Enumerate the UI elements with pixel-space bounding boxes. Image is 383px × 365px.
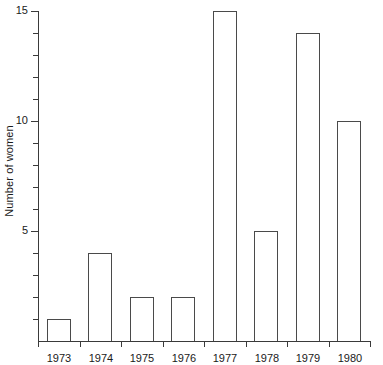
bar (213, 11, 237, 341)
y-axis-tick-label: 15 (16, 4, 28, 17)
x-axis-tick (246, 341, 247, 347)
y-axis-tick-minor (33, 319, 38, 320)
y-axis-tick-minor (33, 165, 38, 166)
x-axis-tick-label: 1975 (121, 351, 163, 365)
x-axis-tick (163, 341, 164, 347)
plot-area: 51015 19731974197519761977197819791980 (38, 11, 370, 341)
x-axis-tick (329, 341, 330, 347)
bar (171, 297, 195, 341)
bar (130, 297, 154, 341)
x-axis-tick-label: 1977 (204, 351, 246, 365)
y-axis-tick-label: 10 (16, 114, 28, 127)
x-axis-tick-label: 1979 (287, 351, 329, 365)
bar (47, 319, 71, 341)
y-axis-tick-major: 10 (31, 121, 38, 122)
x-axis-tick-label: 1978 (246, 351, 288, 365)
y-axis-tick-minor (33, 253, 38, 254)
x-axis-tick-label: 1973 (38, 351, 80, 365)
x-axis-tick (121, 341, 122, 347)
x-axis-tick-label: 1976 (163, 351, 205, 365)
x-axis-tick (80, 341, 81, 347)
y-axis-tick-minor (33, 77, 38, 78)
x-axis-tick-label: 1980 (329, 351, 371, 365)
y-axis-label: Number of women (0, 0, 18, 341)
y-axis-line (38, 11, 39, 341)
y-axis-tick-minor (33, 55, 38, 56)
x-axis-tick (204, 341, 205, 347)
bar (254, 231, 278, 341)
y-axis-tick-minor (33, 297, 38, 298)
y-axis-tick-minor (33, 209, 38, 210)
x-axis-tick (370, 341, 371, 347)
y-axis-tick-label: 5 (22, 224, 28, 237)
bar (296, 33, 320, 341)
x-axis-tick (287, 341, 288, 347)
y-axis-tick-major: 15 (31, 11, 38, 12)
y-axis-tick-minor (33, 275, 38, 276)
y-axis-tick-minor (33, 99, 38, 100)
y-axis-label-text: Number of women (3, 125, 15, 216)
y-axis-tick-minor (33, 143, 38, 144)
y-axis-tick-major: 5 (31, 231, 38, 232)
x-axis-tick (38, 341, 39, 347)
bar (88, 253, 112, 341)
bar (337, 121, 361, 341)
x-axis-tick-label: 1974 (80, 351, 122, 365)
y-axis-tick-minor (33, 187, 38, 188)
y-axis-tick-minor (33, 33, 38, 34)
